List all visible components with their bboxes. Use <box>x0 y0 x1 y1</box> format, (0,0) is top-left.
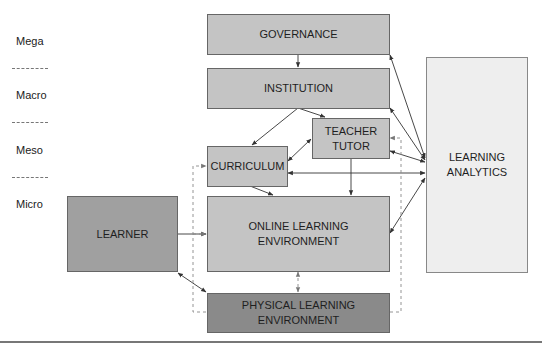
learning-label: LEARNING <box>449 150 505 165</box>
institution-node: INSTITUTION <box>207 68 390 109</box>
learner-node: LEARNER <box>67 196 178 272</box>
curriculum-label: CURRICULUM <box>211 159 285 174</box>
tutor-label: TUTOR <box>332 139 370 154</box>
learning-analytics-node: LEARNING ANALYTICS <box>426 57 528 273</box>
teacher-label: TEACHER <box>325 124 378 139</box>
learner-label: LEARNER <box>97 227 149 242</box>
governance-node: GOVERNANCE <box>207 14 390 55</box>
governance-label: GOVERNANCE <box>259 27 337 42</box>
bottom-rule <box>0 341 542 343</box>
online-learning-environment-node: ONLINE LEARNING ENVIRONMENT <box>207 196 390 272</box>
online-learning-label: ONLINE LEARNING <box>248 219 348 234</box>
institution-label: INSTITUTION <box>264 81 333 96</box>
teacher-tutor-node: TEACHER TUTOR <box>312 118 390 159</box>
environment-label: ENVIRONMENT <box>258 234 339 249</box>
curriculum-node: CURRICULUM <box>207 146 288 187</box>
physical-learning-label: PHYSICAL LEARNING <box>242 298 355 313</box>
analytics-label: ANALYTICS <box>447 165 507 180</box>
environment-label: ENVIRONMENT <box>258 313 339 328</box>
physical-learning-environment-node: PHYSICAL LEARNING ENVIRONMENT <box>207 293 390 333</box>
